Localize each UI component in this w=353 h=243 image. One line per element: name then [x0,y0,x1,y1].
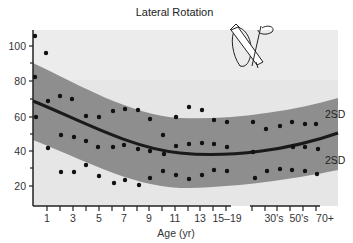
y-tick-20: 20 [14,180,26,192]
x-tick-5: 5 [96,212,102,224]
x-tick-7: 7 [121,212,127,224]
x-tick-9: 9 [146,212,152,224]
x-tick-30s: 30's [265,212,284,224]
y-tick-100: 100 [8,40,26,52]
x-tick-15-19: 15–19 [212,212,241,224]
y-tick-80: 80 [14,75,26,87]
sd-lower-label: 2SD [325,154,346,166]
x-tick-3: 3 [70,212,76,224]
x-tick-13: 13 [194,212,206,224]
y-tick-60: 60 [14,111,26,123]
plot-area-upper [33,30,338,80]
x-axis-label: Age (yr) [157,227,194,239]
y-tick-40: 40 [14,145,26,157]
x-tick-70plus: 70+ [316,212,334,224]
sd-upper-label: 2SD [325,108,346,120]
x-tick-1: 1 [44,212,50,224]
x-tick-50s: 50's [290,212,309,224]
x-tick-11: 11 [170,212,181,224]
chart-canvas: 100 80 60 40 20 1 3 5 7 9 11 13 15–19 30… [0,0,353,243]
